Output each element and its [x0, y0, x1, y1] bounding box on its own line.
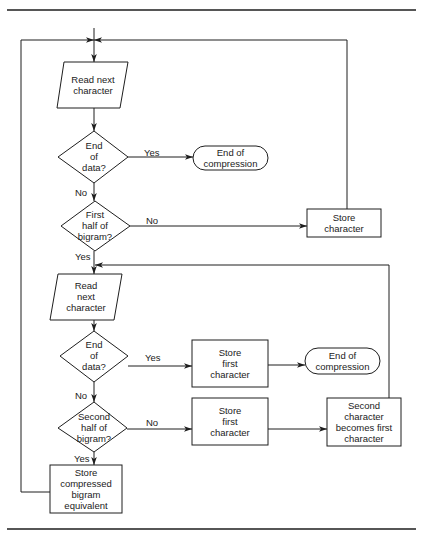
store-compressed-label: Store compressed bigram equivalent — [50, 467, 122, 511]
end2-yes-label: Yes — [145, 352, 161, 363]
store-first2-label: Store first character — [192, 405, 268, 438]
end-comp1-label: End of compression — [193, 147, 268, 169]
end-data2-label: End of data? — [64, 339, 124, 372]
store-char-label: Store character — [307, 212, 381, 234]
end-comp2-label: End of compression — [305, 350, 380, 372]
second-half-yes-label: Yes — [74, 453, 90, 464]
first-half-no-label: No — [146, 215, 158, 226]
first-half-yes-label: Yes — [75, 251, 91, 262]
end1-no-label: No — [75, 187, 87, 198]
store-compressed-loop — [21, 40, 50, 492]
second-half-no-label: No — [146, 417, 158, 428]
second-becomes-first-label: Second character becomes first character — [327, 400, 401, 444]
read2-label: Read next character — [52, 280, 120, 313]
second-half-label: Second half of bigram? — [64, 411, 124, 444]
read1-label: Read next character — [60, 74, 126, 96]
end1-yes-label: Yes — [144, 147, 160, 158]
store-first1-label: Store first character — [192, 347, 268, 380]
end2-no-label: No — [75, 390, 87, 401]
end-data1-label: End of data? — [64, 140, 124, 173]
first-half-label: First half of bigram? — [65, 209, 125, 242]
